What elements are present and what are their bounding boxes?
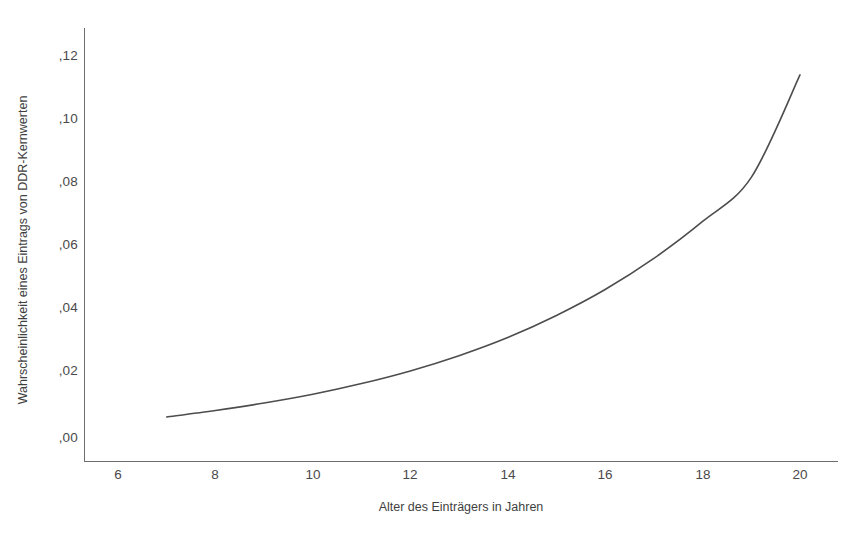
data-series-line: [167, 75, 800, 417]
chart-figure: ,12 ,10 ,08 ,06 ,04 ,02 ,00 6 8 10 12 14…: [0, 0, 865, 539]
plot-area: [0, 0, 865, 539]
